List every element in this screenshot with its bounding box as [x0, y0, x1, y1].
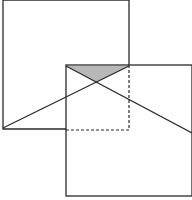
shaded-triangle [66, 66, 129, 82]
geometry-diagram [0, 0, 192, 200]
